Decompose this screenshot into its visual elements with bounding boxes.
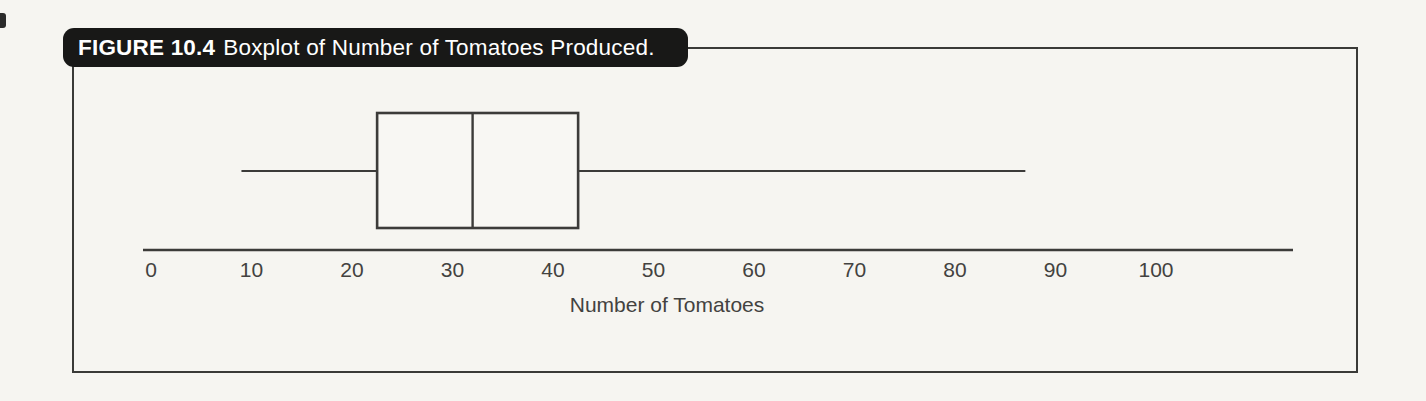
x-tick-label: 70 [843, 258, 866, 281]
x-tick-label: 80 [943, 258, 966, 281]
x-tick-label: 50 [642, 258, 665, 281]
figure-label: FIGURE 10.4 [78, 35, 215, 60]
figure-title-banner: FIGURE 10.4Boxplot of Number of Tomatoes… [63, 28, 688, 67]
x-axis-title: Number of Tomatoes [570, 293, 765, 316]
x-tick-label: 100 [1138, 258, 1173, 281]
figure-caption: Boxplot of Number of Tomatoes Produced. [223, 35, 654, 60]
iqr-box [377, 113, 578, 228]
x-tick-label: 40 [541, 258, 564, 281]
x-tick-label: 60 [742, 258, 765, 281]
x-tick-label: 10 [240, 258, 263, 281]
page: 0102030405060708090100Number of Tomatoes… [0, 0, 1426, 401]
x-tick-label: 20 [340, 258, 363, 281]
x-tick-label: 30 [441, 258, 464, 281]
x-tick-label: 90 [1044, 258, 1067, 281]
x-tick-label: 0 [145, 258, 157, 281]
